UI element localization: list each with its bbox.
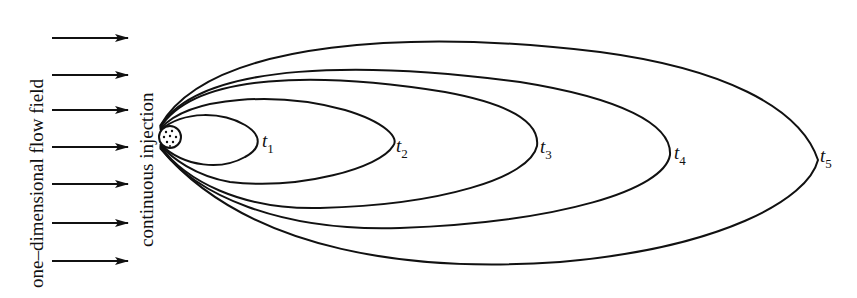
time-label-t4: t4 — [674, 142, 686, 168]
time-label-t2: t2 — [396, 135, 408, 161]
time-label-t1: t1 — [262, 130, 274, 156]
flow-arrows — [52, 38, 128, 261]
plume-contours — [160, 42, 818, 265]
time-label-t5: t5 — [820, 145, 832, 171]
contour-t2 — [160, 99, 395, 184]
time-label-t3: t3 — [540, 136, 552, 162]
contour-t5 — [160, 42, 818, 265]
injection-source — [159, 126, 181, 148]
contour-t4 — [160, 70, 670, 229]
time-labels: t1 t2 t3 t4 t5 — [262, 130, 832, 171]
contour-t3 — [160, 80, 537, 208]
